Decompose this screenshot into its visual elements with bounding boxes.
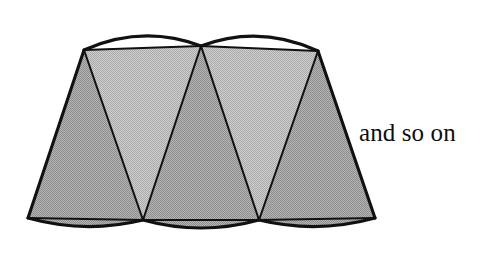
band-fill-group [28, 46, 375, 227]
cone-unrolling-diagram [0, 0, 501, 259]
figure-root: and so on [0, 0, 501, 259]
